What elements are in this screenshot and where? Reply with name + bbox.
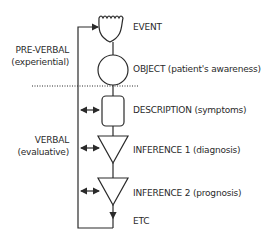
- region-verbal-title: VERBAL: [17, 134, 69, 146]
- node-label-inference2: INFERENCE 2 (prognosis): [133, 188, 241, 199]
- region-verbal: VERBAL (evaluative): [17, 134, 69, 158]
- region-pre-verbal: PRE-VERBAL (experiential): [11, 44, 69, 68]
- object-circle: [98, 55, 128, 85]
- inference1-triangle: [98, 136, 128, 163]
- node-label-description: DESCRIPTION (symptoms): [133, 105, 246, 116]
- diagram-canvas: [0, 0, 272, 244]
- region-pre-verbal-subtitle: (experiential): [11, 56, 69, 68]
- feedback-loop: [78, 27, 113, 228]
- region-pre-verbal-title: PRE-VERBAL: [11, 44, 69, 56]
- event-shape: [99, 16, 123, 42]
- node-label-etc: ETC: [133, 216, 149, 227]
- region-verbal-subtitle: (evaluative): [17, 146, 69, 158]
- description-box: [102, 96, 124, 126]
- inference2-triangle: [98, 178, 128, 205]
- node-label-inference1: INFERENCE 1 (diagnosis): [133, 145, 240, 156]
- node-label-object: OBJECT (patient's awareness): [133, 64, 261, 75]
- node-label-event: EVENT: [133, 22, 162, 33]
